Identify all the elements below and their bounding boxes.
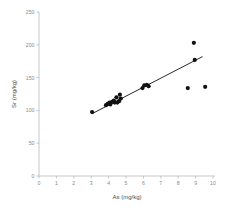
x-tick-label: 2 <box>72 180 75 186</box>
x-axis: 012345678910 <box>38 176 216 186</box>
x-tick-label: 4 <box>107 180 110 186</box>
x-tick-label: 10 <box>210 180 216 186</box>
data-point <box>119 96 123 100</box>
x-tick-label: 3 <box>90 180 93 186</box>
y-axis-title: Sr (mg/kg) <box>11 80 17 108</box>
data-point <box>203 85 207 89</box>
x-axis-ticks: 012345678910 <box>38 176 216 186</box>
x-tick-label: 8 <box>177 180 180 186</box>
y-axis-ticks: 050100150200250 <box>26 9 39 179</box>
scatter-chart: As (mg/kg) Sr (mg/kg) 050100150200250 01… <box>0 0 247 211</box>
data-point <box>186 86 190 90</box>
y-tick-label: 0 <box>32 173 35 179</box>
x-tick-label: 9 <box>194 180 197 186</box>
x-tick-label: 0 <box>38 180 41 186</box>
x-tick-label: 5 <box>125 180 128 186</box>
x-tick-label: 7 <box>159 180 162 186</box>
y-axis: 050100150200250 <box>26 9 39 179</box>
data-point <box>114 95 118 99</box>
y-tick-label: 200 <box>26 42 35 48</box>
x-tick-label: 6 <box>142 180 145 186</box>
data-point <box>147 84 151 88</box>
data-point <box>193 58 197 62</box>
y-tick-label: 150 <box>26 75 35 81</box>
data-point <box>90 110 94 114</box>
data-points <box>90 41 207 114</box>
x-tick-label: 1 <box>55 180 58 186</box>
y-tick-label: 250 <box>26 9 35 15</box>
y-tick-label: 100 <box>26 107 35 113</box>
chart-canvas: 050100150200250 012345678910 As (mg/kg) … <box>0 0 247 211</box>
y-tick-label: 50 <box>29 140 35 146</box>
x-axis-title: As (mg/kg) <box>112 194 141 200</box>
data-point <box>118 93 122 97</box>
data-point <box>192 41 196 45</box>
